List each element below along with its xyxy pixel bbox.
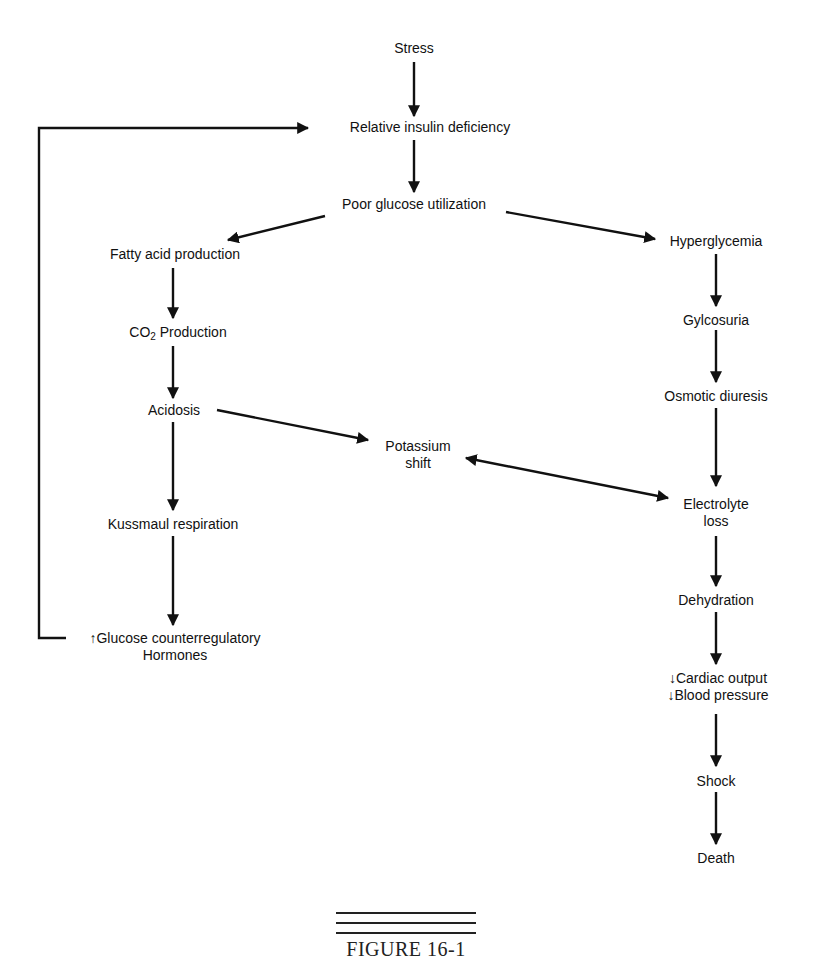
arrow-glucose-to-hyperglycemia: [506, 212, 655, 239]
caption-rule-2: [336, 922, 476, 924]
electrolyte-line1: Electrolyte: [683, 496, 748, 513]
node-glucose-counterregulatory-hormones: ↑Glucose counterregulatory Hormones: [89, 630, 260, 664]
node-dehydration: Dehydration: [678, 592, 754, 609]
node-poor-glucose-utilization: Poor glucose utilization: [342, 196, 486, 213]
arrow-potassium-electrolyte-bidirectional: [466, 458, 668, 498]
node-electrolyte-loss: Electrolyte loss: [683, 496, 748, 530]
node-hyperglycemia: Hyperglycemia: [670, 233, 763, 250]
node-kussmaul-respiration: Kussmaul respiration: [108, 516, 239, 533]
node-osmotic-diuresis: Osmotic diuresis: [664, 388, 767, 405]
node-potassium-shift: Potassium shift: [385, 438, 450, 472]
node-acidosis: Acidosis: [148, 402, 200, 419]
co2-prefix: CO: [129, 324, 150, 340]
node-relative-insulin-deficiency: Relative insulin deficiency: [350, 119, 510, 136]
node-co2-production: CO2 Production: [129, 324, 226, 345]
counterregulatory-line1: ↑Glucose counterregulatory: [89, 630, 260, 647]
caption-rule-1: [336, 912, 476, 914]
caption-rule-3: [336, 932, 476, 934]
node-death: Death: [697, 850, 734, 867]
co2-suffix: Production: [156, 324, 227, 340]
node-fatty-acid-production: Fatty acid production: [110, 246, 240, 263]
blood-pressure-line: ↓Blood pressure: [667, 687, 768, 704]
cardiac-output-line: ↓Cardiac output: [667, 670, 768, 687]
node-stress: Stress: [394, 40, 434, 57]
node-shock: Shock: [697, 773, 736, 790]
potassium-line1: Potassium: [385, 438, 450, 455]
flow-diagram: Stress Relative insulin deficiency Poor …: [0, 0, 818, 966]
figure-caption: FIGURE 16-1: [336, 938, 476, 961]
counterregulatory-line2: Hormones: [89, 647, 260, 664]
arrow-glucose-to-fatty-acid: [228, 216, 325, 240]
potassium-line2: shift: [385, 455, 450, 472]
diagram-arrows: [0, 0, 818, 966]
node-cardiac-output-blood-pressure: ↓Cardiac output ↓Blood pressure: [667, 670, 768, 704]
arrow-acidosis-to-potassium: [217, 410, 368, 440]
node-glycosuria: Gylcosuria: [683, 312, 749, 329]
electrolyte-line2: loss: [683, 513, 748, 530]
